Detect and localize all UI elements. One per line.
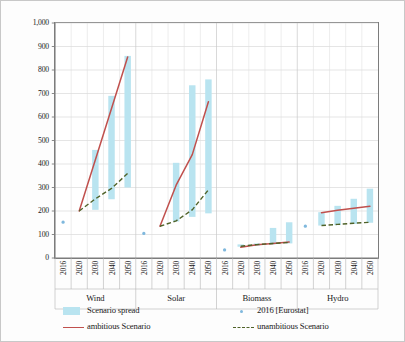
chart-figure: Installed capacities [GW] 01002003004005…: [0, 0, 405, 342]
y-tick-label: 600: [15, 112, 49, 121]
x-tick-label-year: 2016: [140, 261, 149, 275]
scenario-spread-bar: [124, 56, 130, 188]
y-tick-label: 900: [15, 42, 49, 51]
eurostat-2016-marker: [142, 232, 145, 235]
x-tick-label-year: 2020: [237, 261, 246, 275]
eurostat-2016-marker: [223, 248, 226, 251]
x-tick-label-year: 2020: [75, 261, 84, 275]
x-tick-label-year: 2040: [188, 261, 197, 275]
y-tick-label: 0: [15, 253, 49, 262]
y-tick-label: 400: [15, 159, 49, 168]
group-label-biomass: Biomass: [217, 293, 298, 303]
legend-line-ambitious: [63, 327, 84, 328]
x-tick-label-year: 2030: [172, 261, 181, 275]
legend-line-unambitious: [233, 327, 254, 328]
scenario-spread-bar: [189, 85, 195, 217]
eurostat-2016-marker: [304, 224, 307, 227]
x-tick-label-year: 2016: [59, 261, 68, 275]
x-tick-label-year: 2050: [204, 261, 213, 275]
y-tick-label: 500: [15, 136, 49, 145]
y-tick-label: 100: [15, 230, 49, 239]
y-tick-label: 800: [15, 65, 49, 74]
x-tick-label-year: 2030: [91, 261, 100, 275]
scenario-spread-bar: [270, 228, 276, 244]
x-tick-label-year: 2030: [334, 261, 343, 275]
eurostat-2016-marker: [61, 220, 64, 223]
group-label-solar: Solar: [136, 293, 217, 303]
x-tick-label-year: 2020: [317, 261, 326, 275]
y-tick-label: 700: [15, 89, 49, 98]
y-tick-label: 1,000: [15, 18, 49, 27]
legend-label-eurostat: 2016 [Eurostat]: [257, 305, 308, 315]
x-tick-label-year: 2040: [269, 261, 278, 275]
x-tick-label-year: 2016: [301, 261, 310, 275]
x-tick-label-year: 2050: [366, 261, 375, 275]
group-label-hydro: Hydro: [297, 293, 378, 303]
x-tick-label-year: 2030: [253, 261, 262, 275]
y-tick-label: 200: [15, 206, 49, 215]
x-tick-label-year: 2050: [124, 261, 133, 275]
scenario-spread-bar: [286, 222, 292, 243]
legend-label-unambitious: unambitious Scenario: [257, 321, 329, 331]
x-tick-label-year: 2016: [221, 261, 230, 275]
scenario-spread-bar: [334, 206, 340, 225]
x-tick-label-year: 2040: [108, 261, 117, 275]
scenario-spread-bar: [351, 199, 357, 224]
scenario-spread-bar: [318, 212, 324, 225]
legend-swatch-scenario-spread: [63, 307, 80, 315]
group-label-wind: Wind: [55, 293, 136, 303]
x-tick-label-year: 2020: [156, 261, 165, 275]
x-tick-label-year: 2040: [350, 261, 359, 275]
chart-canvas: [1, 1, 405, 342]
legend-label-spread: Scenario spread: [87, 305, 139, 315]
x-tick-label-year: 2050: [285, 261, 294, 275]
y-tick-label: 300: [15, 183, 49, 192]
legend-label-ambitious: ambitious Scenario: [87, 321, 150, 331]
scenario-spread-bar: [108, 96, 114, 199]
